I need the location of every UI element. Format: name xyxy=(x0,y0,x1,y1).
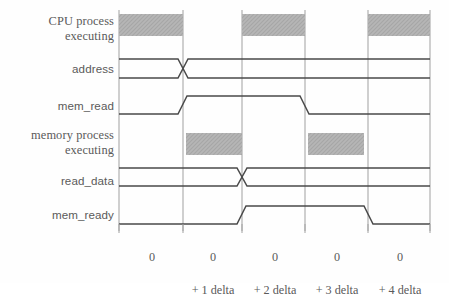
axis-tick-1-bottom: + 1 delta xyxy=(192,283,235,297)
waveform-read-data xyxy=(119,168,430,186)
waveform-mem-read xyxy=(119,96,430,114)
waveform-cpu-process-executing xyxy=(119,14,430,36)
waveform-mem-ready xyxy=(119,206,430,224)
axis-ticks xyxy=(119,224,430,233)
gridlines xyxy=(119,10,430,231)
axis-tick-2-bottom: + 2 delta xyxy=(254,283,297,297)
axis-tick-4-bottom: + 4 delta xyxy=(379,283,422,297)
axis-tick-3-bottom: + 3 delta xyxy=(316,283,359,297)
waveform-memory-process-executing xyxy=(186,133,364,155)
waveform-address xyxy=(119,59,430,78)
